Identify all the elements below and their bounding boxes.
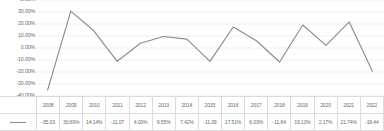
value-cell: 30.69% (60, 114, 83, 131)
value-cell: -11.64 (268, 114, 291, 131)
category-cell: 2017 (245, 97, 268, 114)
legend-swatch-cell (0, 114, 37, 131)
plot-canvas (36, 0, 384, 96)
gridlines (36, 0, 384, 96)
value-cell: 4.00% (129, 114, 152, 131)
y-tick-label: -10.00% (16, 57, 35, 62)
value-cell: 19.13% (291, 114, 314, 131)
y-axis: 40.00%30.00%20.00%10.00%0.00%-10.00%-20.… (0, 0, 36, 96)
table-row-categories: 2008200920102011201220132014201520162017… (0, 97, 384, 114)
value-cell: -35.03 (37, 114, 60, 131)
plot-area: 40.00%30.00%20.00%10.00%0.00%-10.00%-20.… (0, 0, 384, 96)
category-cell: 2019 (291, 97, 314, 114)
value-cell: -19.44 (360, 114, 383, 131)
category-cell: 2016 (222, 97, 245, 114)
legend-header-cell (0, 97, 37, 114)
category-cell: 2011 (106, 97, 129, 114)
value-cell: 17.51% (222, 114, 245, 131)
y-tick-label: -30.00% (16, 81, 35, 86)
series-svg (36, 0, 384, 96)
category-cell: 2022 (360, 97, 383, 114)
y-tick-label: 20.00% (18, 21, 35, 26)
category-cell: 2010 (83, 97, 106, 114)
value-cell: 21.74% (337, 114, 360, 131)
category-cell: 2014 (175, 97, 198, 114)
table-row-values: -35.0330.69%14.14%-11.074.00%9.55%7.42%-… (0, 114, 384, 131)
category-cell: 2008 (37, 97, 60, 114)
value-cell: 2.17% (314, 114, 337, 131)
y-tick-label: -20.00% (16, 69, 35, 74)
series-line-swatch-icon (10, 122, 26, 123)
category-cell: 2021 (337, 97, 360, 114)
category-cell: 2012 (129, 97, 152, 114)
value-cell: 6.03% (245, 114, 268, 131)
y-tick-label: 10.00% (18, 33, 35, 38)
category-cell: 2020 (314, 97, 337, 114)
y-tick-label: 30.00% (18, 9, 35, 14)
y-tick-label: 0.00% (21, 45, 35, 50)
data-table: 2008200920102011201220132014201520162017… (0, 96, 384, 131)
category-cell: 2018 (268, 97, 291, 114)
value-cell: -11.07 (106, 114, 129, 131)
category-cell: 2015 (198, 97, 221, 114)
value-cell: -11.09 (198, 114, 221, 131)
value-cell: 7.42% (175, 114, 198, 131)
value-cell: 14.14% (83, 114, 106, 131)
y-tick-label: 40.00% (18, 0, 35, 3)
category-cell: 2013 (152, 97, 175, 114)
category-cell: 2009 (60, 97, 83, 114)
series-line (48, 11, 373, 90)
value-cell: 9.55% (152, 114, 175, 131)
line-chart-with-data-table: 40.00%30.00%20.00%10.00%0.00%-10.00%-20.… (0, 0, 384, 131)
